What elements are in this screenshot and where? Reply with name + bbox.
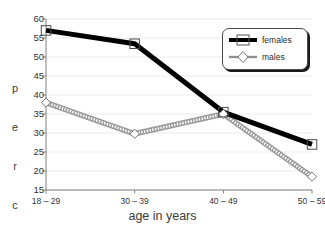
legend-item-males: males <box>228 50 285 64</box>
legend-label-males: males <box>262 52 285 62</box>
x-tick-label: 40 – 49 <box>209 196 237 206</box>
x-tick-label: 18 – 29 <box>32 196 60 206</box>
legend-swatch-males <box>228 51 258 63</box>
x-axis-title: age in years <box>0 209 325 223</box>
legend-label-females: females <box>262 35 292 45</box>
chart-legend: females males <box>222 28 308 70</box>
legend-item-females: females <box>228 33 292 47</box>
x-tick-label: 30 – 39 <box>120 196 148 206</box>
x-tick-label: 50 – 59 <box>298 196 325 206</box>
legend-swatch-females <box>228 34 258 46</box>
chart-figure: p e r c e n t 15202530354045505560 18 – … <box>0 0 325 233</box>
